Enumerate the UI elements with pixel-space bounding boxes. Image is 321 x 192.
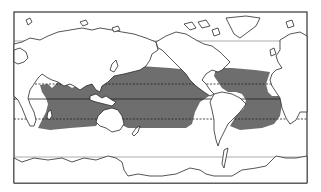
map-svg [0, 0, 321, 192]
world-map [0, 0, 321, 192]
